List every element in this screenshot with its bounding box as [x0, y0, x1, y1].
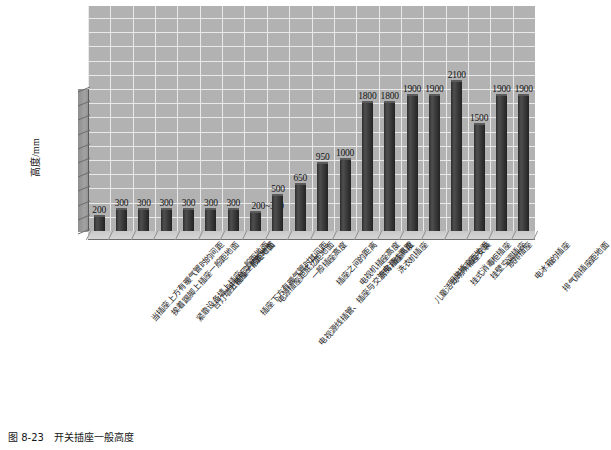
bar-value-label: 1900 [421, 84, 447, 94]
x-axis-category-labels: 当插座上方有暖气管时的间距挨着踢脚上插座一般距地面紧靠设备墙上插座一般距地面台灯… [0, 236, 543, 411]
bar [340, 160, 351, 231]
figure-caption: 图 8-23开关插座一般高度 [8, 429, 134, 444]
bar-value-label: 1900 [511, 84, 537, 94]
bar [518, 96, 529, 231]
caption-number: 图 8-23 [8, 432, 44, 443]
bar-top-face [94, 215, 105, 217]
bar [496, 96, 507, 231]
bar-value-label: 650 [287, 173, 313, 183]
y-axis-title: 高度/mm [27, 118, 42, 198]
bar-top-face [205, 208, 216, 210]
bar [451, 82, 462, 231]
bar-value-label: 300 [220, 198, 246, 208]
bar-top-face [384, 101, 395, 103]
bar-value-label: 1500 [466, 113, 492, 123]
bar [205, 210, 216, 231]
bar-top-face [295, 183, 306, 185]
bar [384, 103, 395, 231]
caption-text: 开关插座一般高度 [54, 432, 134, 443]
bar-top-face [250, 211, 261, 213]
bar-top-face [407, 94, 418, 96]
bar [407, 96, 418, 231]
bar-top-face [317, 162, 328, 164]
bar [272, 196, 283, 232]
bar-top-face [518, 94, 529, 96]
bar-value-label: 1000 [332, 148, 358, 158]
bar-value-label: 500 [265, 184, 291, 194]
x-axis-category-label: 电源插座距底边距地面 [276, 240, 336, 305]
bar-top-face [116, 208, 127, 210]
bar [228, 210, 239, 231]
x-axis-category-label: 电冰箱的插座 [533, 240, 572, 281]
bar [138, 210, 149, 231]
x-axis-category-label: 当插座上方有暖气管时的间距 [150, 240, 226, 323]
bar-top-face [451, 80, 462, 82]
bar-top-face [362, 101, 373, 103]
bar [161, 210, 172, 231]
bar [183, 210, 194, 231]
bar-top-face [474, 123, 485, 125]
bar-series: 200300300300300300300200~300500650950100… [88, 6, 535, 240]
bar-top-face [496, 94, 507, 96]
bar [116, 210, 127, 231]
bar [94, 217, 105, 231]
bar-value-label: 2100 [444, 70, 470, 80]
bar-top-face [340, 158, 351, 160]
bar-top-face [228, 208, 239, 210]
bar [474, 125, 485, 232]
bar-top-face [272, 194, 283, 196]
bar-top-face [183, 208, 194, 210]
bar [295, 185, 306, 231]
bar-top-face [138, 208, 149, 210]
bar-top-face [161, 208, 172, 210]
bar [429, 96, 440, 231]
bar-top-face [429, 94, 440, 96]
bar [250, 213, 261, 231]
bar [317, 164, 328, 231]
bar [362, 103, 373, 231]
